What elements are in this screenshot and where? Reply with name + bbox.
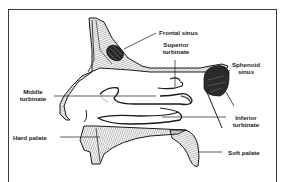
- label-inferior-turbinate: Inferior turbinate: [228, 114, 264, 128]
- label-superior-turbinate-line1: Superior: [160, 41, 192, 48]
- label-inferior-turbinate-line1: Inferior: [228, 114, 264, 121]
- label-hard-palate: Hard palate: [13, 134, 47, 141]
- label-superior-turbinate-line2: turbinate: [160, 48, 192, 55]
- label-middle-turbinate: Middle turbinate: [14, 88, 52, 102]
- label-sphenoid-sinus: Sphenoid sinus: [229, 61, 263, 75]
- soft-palate-shape: [170, 130, 199, 166]
- label-frontal-sinus: Frontal sinus: [159, 29, 198, 36]
- label-inferior-turbinate-line2: turbinate: [228, 121, 264, 128]
- label-soft-palate: Soft palate: [228, 149, 260, 156]
- inferior-turbinate-shape: [84, 108, 182, 124]
- label-sphenoid-sinus-line2: sinus: [229, 68, 263, 75]
- leader-frontal-sinus: [124, 33, 156, 49]
- nasal-bone-structure: [60, 18, 228, 120]
- label-superior-turbinate: Superior turbinate: [160, 41, 192, 55]
- superior-turbinate-shape: [158, 78, 183, 89]
- label-middle-turbinate-line1: Middle: [14, 88, 52, 95]
- label-sphenoid-sinus-line1: Sphenoid: [229, 61, 263, 68]
- label-middle-turbinate-line2: turbinate: [14, 95, 52, 102]
